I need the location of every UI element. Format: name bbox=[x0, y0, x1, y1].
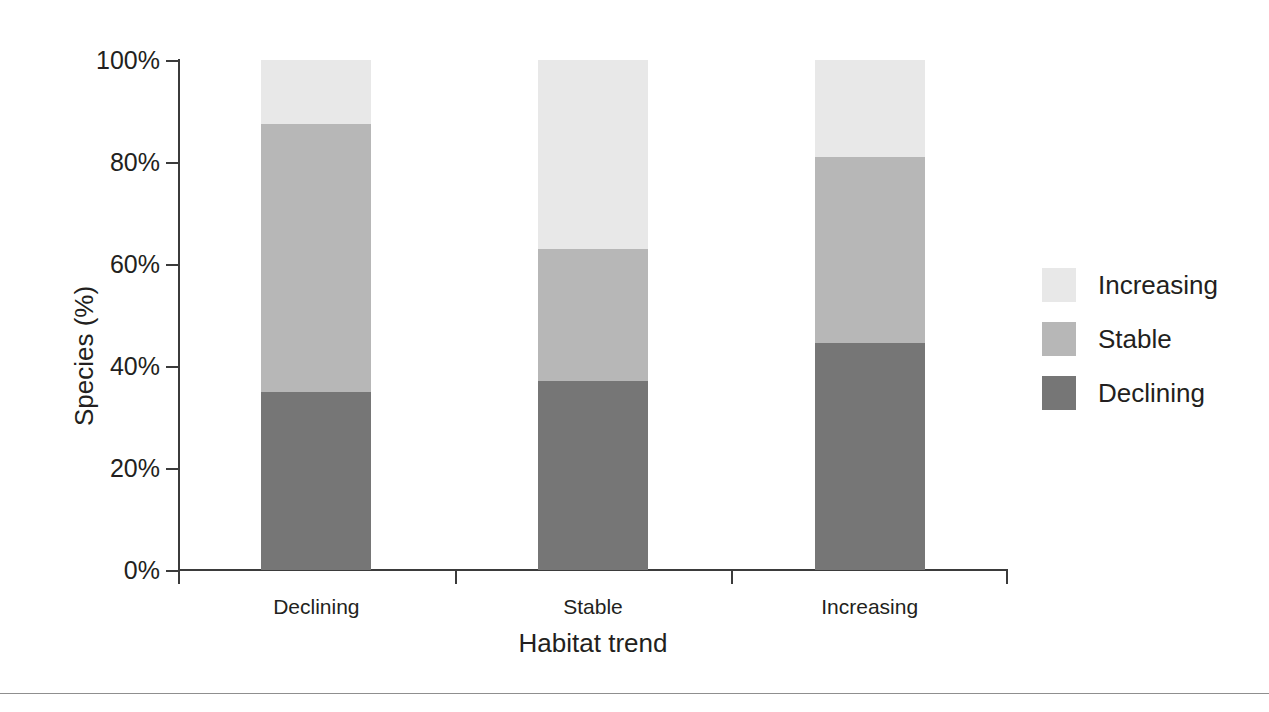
y-tick-label: 40% bbox=[110, 354, 160, 379]
legend-label: Increasing bbox=[1098, 272, 1218, 298]
y-tick-label: 0% bbox=[124, 558, 160, 583]
y-tick-mark bbox=[166, 60, 178, 62]
x-axis-title: Habitat trend bbox=[178, 628, 1008, 659]
bar-segment-increasing[interactable] bbox=[815, 60, 925, 157]
legend-swatch-declining bbox=[1042, 376, 1076, 410]
stacked-bar-chart-figure: Species (%) Habitat trend 100%80%60%40%2… bbox=[0, 0, 1269, 712]
y-tick-label: 20% bbox=[110, 456, 160, 481]
y-axis-title: Species (%) bbox=[69, 286, 100, 426]
bar-segment-stable[interactable] bbox=[261, 124, 371, 392]
bar-segment-increasing[interactable] bbox=[538, 60, 648, 249]
plot-area: 100%80%60%40%20%0%DecliningStableIncreas… bbox=[178, 60, 1008, 570]
y-tick-label: 80% bbox=[110, 150, 160, 175]
bar-segment-declining[interactable] bbox=[261, 392, 371, 571]
y-tick-label: 100% bbox=[96, 48, 160, 73]
x-tick-mark bbox=[178, 570, 180, 584]
x-tick-mark bbox=[1006, 570, 1008, 584]
legend-label: Stable bbox=[1098, 326, 1172, 352]
legend-label: Declining bbox=[1098, 380, 1205, 406]
bar-stable[interactable] bbox=[538, 60, 648, 570]
y-tick-mark bbox=[166, 570, 178, 572]
x-tick-label-increasing: Increasing bbox=[821, 596, 918, 617]
bar-segment-stable[interactable] bbox=[538, 249, 648, 382]
legend-swatch-increasing bbox=[1042, 268, 1076, 302]
x-tick-label-stable: Stable bbox=[563, 596, 623, 617]
bar-segment-stable[interactable] bbox=[815, 157, 925, 343]
bar-segment-increasing[interactable] bbox=[261, 60, 371, 124]
y-tick-mark bbox=[166, 366, 178, 368]
y-tick-label: 60% bbox=[110, 252, 160, 277]
legend-item-declining[interactable]: Declining bbox=[1042, 366, 1218, 420]
legend-item-increasing[interactable]: Increasing bbox=[1042, 258, 1218, 312]
x-tick-mark bbox=[455, 570, 457, 584]
x-tick-mark bbox=[731, 570, 733, 584]
bar-increasing[interactable] bbox=[815, 60, 925, 570]
y-tick-mark bbox=[166, 264, 178, 266]
bar-declining[interactable] bbox=[261, 60, 371, 570]
y-tick-mark bbox=[166, 162, 178, 164]
bar-segment-declining[interactable] bbox=[538, 381, 648, 570]
bottom-divider-rule bbox=[0, 693, 1269, 694]
legend-item-stable[interactable]: Stable bbox=[1042, 312, 1218, 366]
y-tick-mark bbox=[166, 468, 178, 470]
chart-legend: IncreasingStableDeclining bbox=[1042, 258, 1218, 420]
x-tick-label-declining: Declining bbox=[273, 596, 359, 617]
bar-segment-declining[interactable] bbox=[815, 343, 925, 570]
legend-swatch-stable bbox=[1042, 322, 1076, 356]
